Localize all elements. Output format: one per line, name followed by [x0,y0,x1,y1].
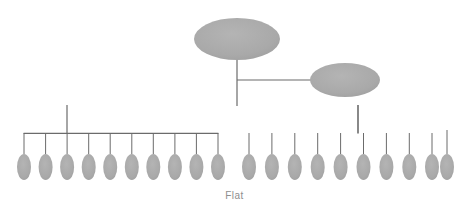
leaf-node-right-3[interactable] [288,154,302,180]
leaf-group-left [17,133,225,180]
leaf-node-right-4[interactable] [311,154,325,180]
root-node[interactable] [194,18,280,60]
staff-node[interactable] [310,63,380,97]
leaf-node-left-2[interactable] [39,154,53,180]
leaf-node-right-10[interactable] [440,154,454,180]
leaf-node-right-6[interactable] [357,154,371,180]
node-layer [194,18,380,97]
leaf-node-left-7[interactable] [146,154,160,180]
leaf-node-left-4[interactable] [82,154,96,180]
leaf-group-right [242,130,454,180]
leaf-node-left-3[interactable] [60,154,74,180]
leaf-node-left-1[interactable] [17,154,31,180]
leaf-node-left-10[interactable] [211,154,225,180]
leaf-node-left-8[interactable] [168,154,182,180]
leaf-node-right-2[interactable] [265,154,279,180]
leaf-node-right-5[interactable] [334,154,348,180]
leaf-node-left-6[interactable] [125,154,139,180]
leaf-node-right-1[interactable] [242,154,256,180]
leaf-node-right-7[interactable] [379,154,393,180]
leaf-node-left-5[interactable] [103,154,117,180]
leaf-layer [17,130,454,180]
leaf-node-left-9[interactable] [189,154,203,180]
leaf-node-right-8[interactable] [402,154,416,180]
flat-hierarchy-diagram: Flat [0,0,469,214]
leaf-node-right-9[interactable] [425,154,439,180]
diagram-canvas [0,0,469,214]
